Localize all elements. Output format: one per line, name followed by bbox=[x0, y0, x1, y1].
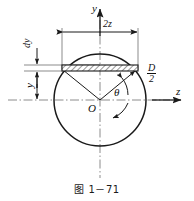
radius-numerator: D bbox=[147, 63, 156, 73]
origin-label: O bbox=[88, 103, 96, 114]
angle-arc-theta bbox=[113, 78, 128, 118]
axes bbox=[100, 9, 181, 100]
y-axis-label: y bbox=[92, 3, 97, 14]
angle-theta-label: θ bbox=[114, 87, 119, 98]
figure-container: y z 2z dy y θ O D 2 图 1－71 bbox=[0, 0, 194, 201]
z-axis-label: z bbox=[176, 86, 180, 97]
figure-caption: 图 1－71 bbox=[0, 181, 194, 196]
radius-label: D 2 bbox=[147, 63, 156, 84]
radius-line-left bbox=[63, 70, 100, 100]
strip-thickness-label: dy bbox=[22, 39, 32, 48]
elemental-strip bbox=[62, 65, 138, 71]
width-dimension-label: 2z bbox=[103, 19, 112, 29]
strip-hatch-fill bbox=[62, 65, 138, 71]
height-dimension-label: y bbox=[24, 83, 35, 88]
radius-denominator: 2 bbox=[147, 74, 156, 84]
theta-arc-lower bbox=[113, 103, 128, 118]
radius-lines bbox=[63, 70, 135, 100]
circle-strip-diagram bbox=[0, 0, 194, 201]
